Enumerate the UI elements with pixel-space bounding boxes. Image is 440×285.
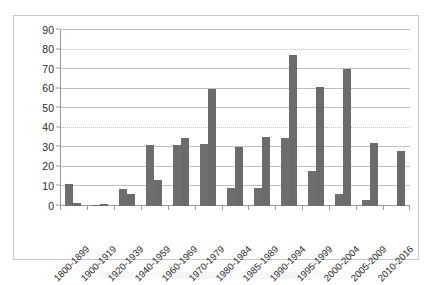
y-tick-label-20: 20 [42, 162, 54, 173]
x-label-slot: 1800-1899 [60, 210, 87, 270]
x-label-slot: 1980-1984 [222, 210, 249, 270]
bar [308, 171, 316, 206]
plot-area: 0102030405060708090 [60, 30, 410, 206]
chart-frame: 0102030405060708090 1800-18991900-191919… [13, 15, 419, 260]
bar [254, 188, 262, 206]
x-label-slot: 1960-1969 [168, 210, 195, 270]
x-label-slot: 2005-2009 [356, 210, 383, 270]
y-tick-label-40: 40 [42, 123, 54, 134]
x-label-slot: 1985-1989 [248, 210, 275, 270]
bar [235, 147, 243, 206]
bar-group [114, 30, 141, 206]
y-tick-label-60: 60 [42, 83, 54, 94]
bar [181, 138, 189, 206]
x-label-slot: 1940-1959 [141, 210, 168, 270]
x-label-slot: 1990-1994 [275, 210, 302, 270]
bar [200, 144, 208, 206]
bar-group [248, 30, 275, 206]
bar-group [383, 30, 410, 206]
bar-group [302, 30, 329, 206]
bar [65, 184, 73, 206]
bar [262, 137, 270, 206]
bar-group [275, 30, 302, 206]
bar [119, 189, 127, 206]
bar [208, 89, 216, 206]
x-axis-labels: 1800-18991900-19191920-19391940-19591960… [60, 210, 410, 270]
y-tick-label-70: 70 [42, 64, 54, 75]
bar-series-container [60, 30, 410, 206]
x-label-slot: 1995-1999 [302, 210, 329, 270]
caption-smudge [90, 272, 355, 279]
bar-group [87, 30, 114, 206]
bar [281, 138, 289, 206]
y-tick-label-90: 90 [42, 25, 54, 36]
y-tick-label-30: 30 [42, 142, 54, 153]
bar-group [60, 30, 87, 206]
bar [289, 55, 297, 206]
y-tick-label-10: 10 [42, 181, 54, 192]
bar [343, 69, 351, 206]
bar-group [222, 30, 249, 206]
y-tick-label-50: 50 [42, 103, 54, 114]
bar-group [168, 30, 195, 206]
bar [127, 194, 135, 206]
bar-group [329, 30, 356, 206]
bar-group [356, 30, 383, 206]
bar-group [195, 30, 222, 206]
bar [92, 205, 100, 206]
y-tick-label-80: 80 [42, 44, 54, 55]
bar [397, 151, 405, 206]
bar [73, 203, 81, 206]
bar [370, 143, 378, 206]
x-label-slot: 2010-2016 [383, 210, 410, 270]
bar [335, 194, 343, 206]
bar [173, 145, 181, 206]
bar [154, 180, 162, 206]
chart-figure: 0102030405060708090 1800-18991900-191919… [0, 0, 440, 285]
y-tick-label-0: 0 [48, 201, 54, 212]
bar [227, 188, 235, 206]
x-label-slot: 1920-1939 [114, 210, 141, 270]
x-label-slot: 1970-1979 [195, 210, 222, 270]
bar-group [141, 30, 168, 206]
bar [316, 87, 324, 206]
x-label-slot: 2000-2004 [329, 210, 356, 270]
x-label-slot: 1900-1919 [87, 210, 114, 270]
bar [146, 145, 154, 206]
bar [100, 204, 108, 206]
bar [362, 200, 370, 206]
